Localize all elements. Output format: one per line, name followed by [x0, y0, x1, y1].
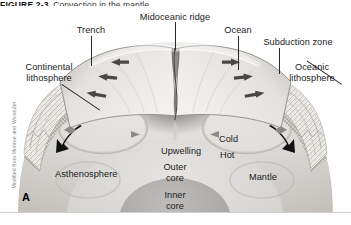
- label-outer-core-line1: Outer: [152, 162, 198, 173]
- leader-trench: [91, 36, 92, 66]
- label-continental-lithosphere-line2: lithosphere: [12, 73, 86, 84]
- label-mantle: Mantle: [249, 172, 277, 183]
- figure-container: FIGURE 2-3 Convection in the mantle: [0, 0, 351, 225]
- label-inner-core: Inner core: [152, 190, 198, 211]
- leader-midoceanic-ridge: [175, 22, 176, 50]
- bottom-divider: [0, 212, 351, 213]
- label-subduction-zone: Subduction zone: [250, 37, 346, 48]
- label-hot: Hot: [220, 150, 234, 161]
- label-oceanic-lithosphere-line2: lithosphere: [277, 73, 347, 84]
- label-asthenosphere: Asthenosphere: [55, 169, 117, 180]
- label-oceanic-lithosphere-line1: Oceanic: [277, 62, 347, 73]
- label-continental-lithosphere-line1: Continental: [12, 62, 86, 73]
- label-outer-core-line2: core: [152, 173, 198, 184]
- source-credit: Modified from Monroe and Wicander: [11, 95, 17, 195]
- label-midoceanic-ridge: Midoceanic ridge: [129, 12, 221, 23]
- leader-ocean: [238, 36, 239, 70]
- label-inner-core-line2: core: [152, 201, 198, 212]
- label-upwelling: Upwelling: [161, 146, 201, 157]
- label-trench: Trench: [69, 25, 113, 36]
- panel-letter: A: [22, 191, 30, 203]
- label-ocean: Ocean: [218, 25, 258, 36]
- label-continental-lithosphere: Continental lithosphere: [12, 62, 86, 83]
- label-oceanic-lithosphere: Oceanic lithosphere: [277, 62, 347, 83]
- label-cold: Cold: [219, 134, 238, 145]
- label-inner-core-line1: Inner: [152, 190, 198, 201]
- label-outer-core: Outer core: [152, 162, 198, 183]
